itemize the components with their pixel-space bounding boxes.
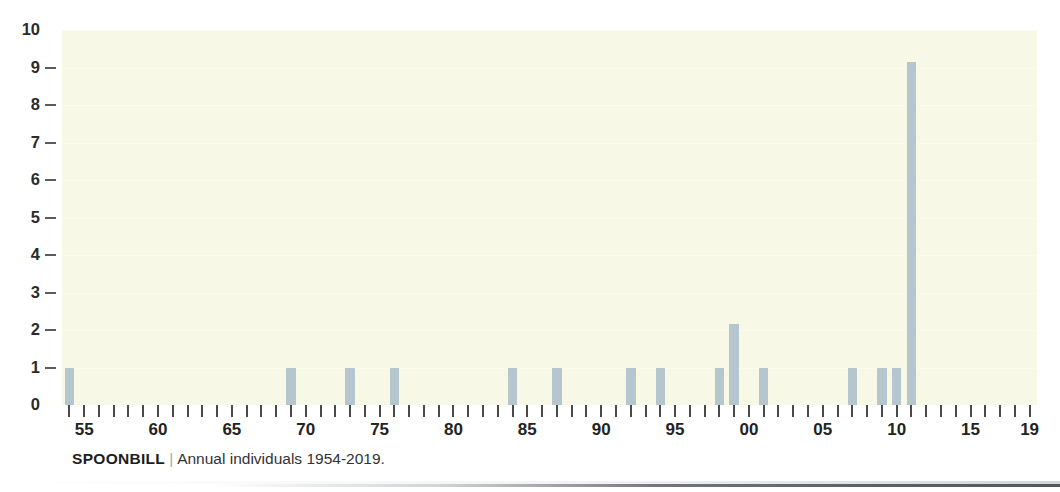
x-tick-mark: [851, 405, 853, 417]
x-tick-mark: [320, 405, 322, 417]
x-tick-mark: [260, 405, 262, 417]
x-tick-mark: [379, 405, 381, 417]
gridline: [62, 68, 1037, 69]
bar: [729, 324, 739, 405]
x-tick-mark: [187, 405, 189, 417]
y-tick-label: 8: [10, 96, 40, 113]
y-tick-mark: [45, 367, 56, 369]
x-tick-mark: [438, 405, 440, 417]
x-tick-mark: [526, 405, 528, 417]
chart-caption: SPOONBILL|Annual individuals 1954-2019.: [72, 450, 385, 469]
x-tick-mark: [157, 405, 159, 417]
x-tick-mark: [1029, 405, 1031, 417]
x-tick-mark: [689, 405, 691, 417]
x-tick-mark: [364, 405, 366, 417]
gridline: [62, 368, 1037, 369]
x-tick-mark: [497, 405, 499, 417]
gridline: [62, 330, 1037, 331]
plot-area: [62, 30, 1037, 405]
x-tick-mark: [881, 405, 883, 417]
x-tick-mark: [704, 405, 706, 417]
y-tick-mark: [45, 292, 56, 294]
x-tick-mark: [630, 405, 632, 417]
y-tick-label: 2: [10, 321, 40, 338]
x-tick-mark: [349, 405, 351, 417]
x-tick-mark: [822, 405, 824, 417]
x-tick-mark: [984, 405, 986, 417]
x-tick-mark: [541, 405, 543, 417]
bar: [345, 368, 355, 406]
gridline: [62, 255, 1037, 256]
y-tick-mark: [45, 104, 56, 106]
bar: [848, 368, 858, 406]
x-tick-mark: [896, 405, 898, 417]
x-tick-label: 65: [212, 421, 252, 438]
x-tick-label: 90: [581, 421, 621, 438]
bar: [715, 368, 725, 406]
y-tick-mark: [45, 217, 56, 219]
x-tick-mark: [837, 405, 839, 417]
x-tick-label: 70: [286, 421, 326, 438]
bar: [390, 368, 400, 406]
y-tick-label: 3: [10, 284, 40, 301]
x-tick-mark: [940, 405, 942, 417]
x-tick-mark: [246, 405, 248, 417]
x-tick-mark: [571, 405, 573, 417]
x-tick-label: 10: [877, 421, 917, 438]
x-tick-label: 75: [360, 421, 400, 438]
y-tick-mark: [45, 142, 56, 144]
x-tick-mark: [733, 405, 735, 417]
bar: [656, 368, 666, 406]
caption-species: SPOONBILL: [72, 450, 165, 467]
x-tick-mark: [748, 405, 750, 417]
y-axis: 012345678910: [0, 0, 62, 410]
x-tick-mark: [113, 405, 115, 417]
x-tick-mark: [600, 405, 602, 417]
x-tick-mark: [423, 405, 425, 417]
bar: [626, 368, 636, 406]
gridline: [62, 218, 1037, 219]
x-tick-mark: [659, 405, 661, 417]
x-tick-mark: [172, 405, 174, 417]
x-tick-mark: [925, 405, 927, 417]
x-tick-mark: [83, 405, 85, 417]
y-tick-label: 4: [10, 246, 40, 263]
x-tick-label: 55: [64, 421, 104, 438]
x-tick-mark: [999, 405, 1001, 417]
y-tick-label: 1: [10, 359, 40, 376]
x-tick-mark: [467, 405, 469, 417]
bar: [552, 368, 562, 406]
x-tick-mark: [334, 405, 336, 417]
y-tick-label: 9: [10, 59, 40, 76]
bar: [286, 368, 296, 406]
x-tick-mark: [866, 405, 868, 417]
x-tick-mark: [231, 405, 233, 417]
y-tick-mark: [45, 179, 56, 181]
x-tick-mark: [970, 405, 972, 417]
x-tick-mark: [1014, 405, 1016, 417]
chart-figure: 012345678910 556065707580859095000510151…: [0, 0, 1060, 492]
bar: [508, 368, 518, 406]
x-tick-mark: [674, 405, 676, 417]
y-tick-label: 5: [10, 209, 40, 226]
x-tick-mark: [645, 405, 647, 417]
bar: [892, 368, 902, 406]
x-tick-label: 15: [951, 421, 991, 438]
x-tick-mark: [393, 405, 395, 417]
y-tick-mark: [45, 67, 56, 69]
bottom-divider: [0, 484, 1060, 487]
x-tick-mark: [910, 405, 912, 417]
y-tick-label: 6: [10, 171, 40, 188]
x-tick-mark: [763, 405, 765, 417]
x-tick-mark: [792, 405, 794, 417]
y-tick-mark: [45, 329, 56, 331]
x-tick-mark: [142, 405, 144, 417]
x-tick-label: 60: [138, 421, 178, 438]
x-tick-mark: [777, 405, 779, 417]
x-tick-label: 00: [729, 421, 769, 438]
x-tick-mark: [615, 405, 617, 417]
x-tick-mark: [807, 405, 809, 417]
x-tick-mark: [127, 405, 129, 417]
x-tick-mark: [216, 405, 218, 417]
x-tick-mark: [68, 405, 70, 417]
